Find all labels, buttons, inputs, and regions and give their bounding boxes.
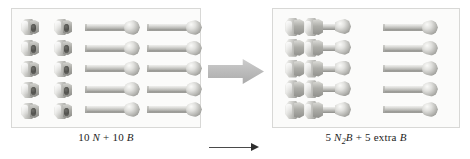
nut-bolt-assembly-icon bbox=[285, 39, 357, 57]
right-arrow-icon bbox=[208, 58, 264, 85]
reactants-panel bbox=[11, 8, 201, 128]
bolt-cell bbox=[383, 60, 438, 78]
bolt-icon bbox=[85, 60, 140, 76]
bolt-icon bbox=[85, 81, 140, 97]
bolt-cell bbox=[383, 19, 438, 37]
bolt-column-1 bbox=[85, 19, 140, 119]
products-caption: 5 N2B + 5 extra B bbox=[272, 131, 460, 146]
bolt-icon bbox=[383, 101, 438, 117]
bolt-icon bbox=[147, 101, 202, 117]
nut-cell bbox=[21, 18, 40, 36]
bolt-icon bbox=[85, 19, 140, 35]
bolt-cell bbox=[147, 81, 202, 99]
nut-cell bbox=[21, 81, 40, 99]
bolt-cell bbox=[147, 19, 202, 37]
bolt-icon bbox=[147, 19, 202, 35]
hex-nut-icon bbox=[54, 81, 73, 99]
nut-column-1 bbox=[21, 18, 40, 120]
bolt-cell bbox=[85, 40, 140, 58]
bolt-icon bbox=[85, 40, 140, 56]
leftover-bolt-column bbox=[383, 19, 438, 119]
hex-nut-icon bbox=[21, 18, 40, 36]
assembly-cell bbox=[285, 60, 357, 78]
bolt-icon bbox=[147, 81, 202, 97]
assembly-cell bbox=[285, 101, 357, 119]
bolt-cell bbox=[85, 60, 140, 78]
bolt-column-2 bbox=[147, 19, 202, 119]
nut-cell bbox=[21, 102, 40, 120]
nut-cell bbox=[21, 60, 40, 78]
bolt-icon bbox=[383, 81, 438, 97]
figure-root: 10 N + 10 B 5 N2B + 5 extra B bbox=[0, 0, 470, 159]
bolt-icon bbox=[147, 40, 202, 56]
nut-cell bbox=[54, 18, 73, 36]
hex-nut-icon bbox=[21, 60, 40, 78]
nut-bolt-assembly-icon bbox=[285, 18, 357, 36]
bolt-cell bbox=[85, 101, 140, 119]
nut-bolt-assembly-icon bbox=[285, 60, 357, 78]
hex-nut-icon bbox=[54, 102, 73, 120]
bolt-icon bbox=[85, 101, 140, 117]
hex-nut-icon bbox=[54, 60, 73, 78]
bolt-cell bbox=[383, 81, 438, 99]
bolt-icon bbox=[383, 40, 438, 56]
nut-column-2 bbox=[54, 18, 73, 120]
nut-cell bbox=[54, 81, 73, 99]
hex-nut-icon bbox=[21, 102, 40, 120]
nut-cell bbox=[54, 60, 73, 78]
bolt-cell bbox=[85, 19, 140, 37]
nut-cell bbox=[54, 102, 73, 120]
bolt-cell bbox=[147, 60, 202, 78]
hex-nut-icon bbox=[21, 81, 40, 99]
hex-nut-icon bbox=[54, 18, 73, 36]
nut-cell bbox=[21, 39, 40, 57]
bolt-cell bbox=[85, 81, 140, 99]
bolt-cell bbox=[383, 40, 438, 58]
hex-nut-icon bbox=[21, 39, 40, 57]
nut-cell bbox=[54, 39, 73, 57]
bolt-cell bbox=[147, 40, 202, 58]
assembly-column bbox=[285, 18, 357, 119]
bolt-cell bbox=[147, 101, 202, 119]
nut-bolt-assembly-icon bbox=[285, 101, 357, 119]
bolt-icon bbox=[383, 60, 438, 76]
nut-bolt-assembly-icon bbox=[285, 80, 357, 98]
products-panel bbox=[272, 8, 460, 128]
bolt-icon bbox=[383, 19, 438, 35]
thin-right-arrow-icon bbox=[209, 143, 259, 152]
assembly-cell bbox=[285, 39, 357, 57]
reactants-caption: 10 N + 10 B bbox=[11, 131, 201, 143]
hex-nut-icon bbox=[54, 39, 73, 57]
bolt-cell bbox=[383, 101, 438, 119]
assembly-cell bbox=[285, 18, 357, 36]
assembly-cell bbox=[285, 80, 357, 98]
bolt-icon bbox=[147, 60, 202, 76]
